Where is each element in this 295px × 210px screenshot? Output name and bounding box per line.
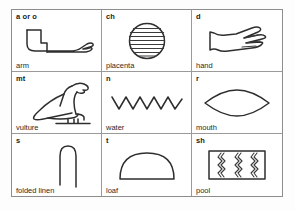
hieroglyph-cell-water: n water (102, 72, 192, 134)
name-label: arm (16, 61, 29, 70)
hieroglyph-cell-folded-linen: s folded linen (12, 134, 102, 196)
loaf-glyph (102, 144, 191, 186)
name-label: placenta (106, 61, 134, 70)
name-label: pool (196, 186, 210, 195)
name-label: loaf (106, 186, 118, 195)
vulture-glyph (12, 82, 101, 124)
name-label: vulture (16, 123, 39, 132)
folded-linen-glyph (12, 144, 101, 186)
pool-glyph (192, 144, 282, 186)
placenta-glyph (102, 20, 191, 62)
hieroglyph-grid: a or o arm ch (11, 9, 283, 197)
hieroglyph-cell-pool: sh pool (192, 134, 282, 196)
name-label: mouth (196, 123, 217, 132)
name-label: water (106, 123, 124, 132)
hand-glyph (192, 20, 282, 62)
name-label: hand (196, 61, 213, 70)
name-label: folded linen (16, 186, 54, 195)
hieroglyph-cell-arm: a or o arm (12, 10, 102, 72)
hieroglyph-cell-hand: d hand (192, 10, 282, 72)
hieroglyph-cell-placenta: ch placenta (102, 10, 192, 72)
hieroglyph-chart-page: a or o arm ch (0, 0, 295, 210)
hieroglyph-cell-vulture: mt (12, 72, 102, 134)
hieroglyph-cell-mouth: r mouth (192, 72, 282, 134)
hieroglyph-cell-loaf: t loaf (102, 134, 192, 196)
water-glyph (102, 82, 191, 124)
mouth-glyph (192, 82, 282, 124)
arm-glyph (12, 20, 101, 62)
